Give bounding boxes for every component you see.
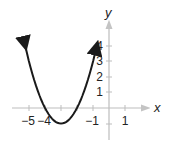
- x-axis-label: x: [153, 100, 161, 115]
- y-tick-label: 3: [96, 54, 103, 68]
- y-axis-label: y: [104, 5, 113, 20]
- parabola-curve: [25, 46, 97, 124]
- y-tick-label: 1: [96, 85, 103, 99]
- y-tick-label: 2: [96, 70, 103, 84]
- chart: −5 −4 −1 1 1 2 3 4 x y: [0, 0, 170, 147]
- x-tick-label: 1: [122, 114, 129, 128]
- x-tick-label: −5: [21, 114, 35, 128]
- x-tick-label: −1: [85, 114, 99, 128]
